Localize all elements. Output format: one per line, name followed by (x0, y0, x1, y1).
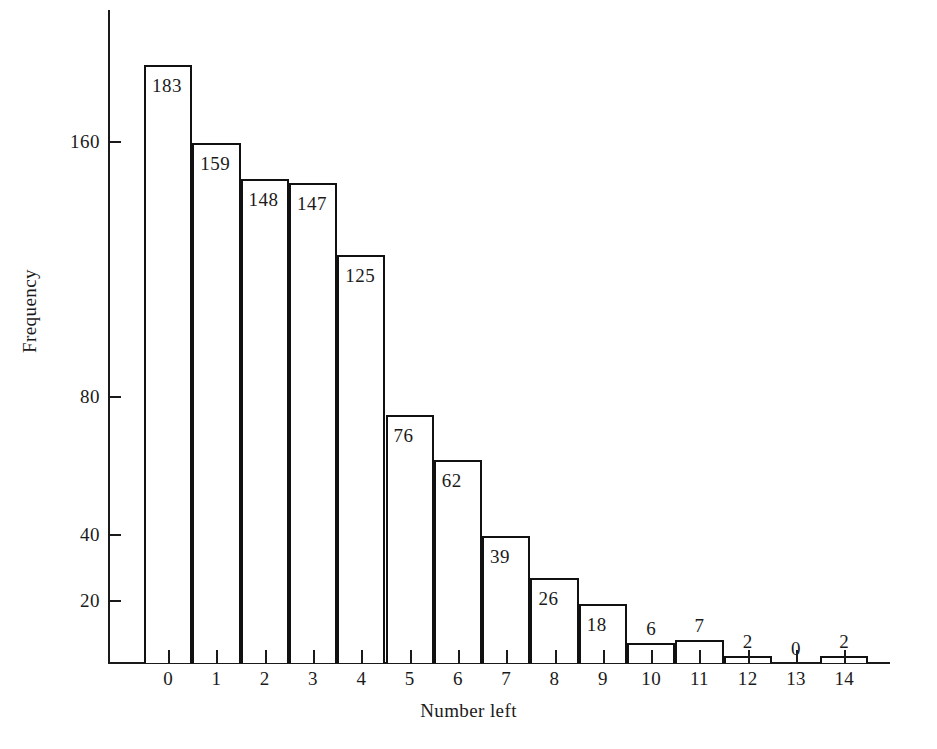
x-tick-10 (651, 650, 653, 663)
bar-value-label-5: 76 (394, 426, 414, 445)
x-tick-label-3: 3 (289, 668, 337, 690)
bar-value-label-11: 7 (675, 616, 723, 635)
bar-value-label-10: 6 (627, 619, 675, 638)
x-tick-label-0: 0 (144, 668, 192, 690)
y-axis-title: Frequency (19, 251, 41, 371)
y-tick-20 (108, 600, 121, 602)
x-tick-label-2: 2 (241, 668, 289, 690)
x-tick-label-4: 4 (337, 668, 385, 690)
bar-value-label-12: 2 (724, 632, 772, 651)
x-tick-5 (410, 650, 412, 663)
bar-5 (386, 415, 434, 663)
bar-1 (192, 143, 240, 663)
x-tick-label-5: 5 (386, 668, 434, 690)
x-axis-title: Number left (0, 700, 937, 722)
y-tick-label-40: 40 (40, 525, 100, 544)
y-tick-label-20-wrap: 20 (35, 591, 100, 610)
bar-value-label-2: 148 (249, 190, 279, 209)
bar-value-label-0: 183 (152, 76, 182, 95)
x-tick-1 (216, 650, 218, 663)
x-tick-11 (699, 650, 701, 663)
x-tick-3 (313, 650, 315, 663)
x-tick-4 (361, 650, 363, 663)
x-tick-7 (506, 650, 508, 663)
bar-value-label-4: 125 (345, 266, 375, 285)
x-tick-9 (603, 650, 605, 663)
bar-value-label-8: 26 (538, 589, 558, 608)
x-tick-label-14: 14 (820, 668, 868, 690)
y-tick-label-40-wrap: 40 (35, 525, 100, 544)
bar-value-label-6: 62 (442, 471, 462, 490)
y-tick-40 (108, 534, 121, 536)
x-tick-12 (748, 650, 750, 663)
x-tick-label-8: 8 (530, 668, 578, 690)
x-tick-label-12: 12 (724, 668, 772, 690)
x-tick-8 (555, 650, 557, 663)
x-tick-13 (796, 650, 798, 663)
bar-3 (289, 183, 337, 663)
bar-value-label-14: 2 (820, 632, 868, 651)
bar-2 (241, 179, 289, 663)
x-tick-label-7: 7 (482, 668, 530, 690)
x-tick-14 (844, 650, 846, 663)
y-tick-160 (108, 141, 121, 143)
y-tick-label-80: 80 (40, 387, 100, 406)
y-axis-line (108, 10, 110, 664)
bar-0 (144, 65, 192, 663)
bar-value-label-7: 39 (490, 547, 510, 566)
x-tick-label-13: 13 (772, 668, 820, 690)
bar-value-label-3: 147 (297, 194, 327, 213)
y-tick-label-20: 20 (40, 591, 100, 610)
x-tick-0 (168, 650, 170, 663)
y-tick-label-160: 160 (40, 132, 100, 151)
x-tick-label-11: 11 (675, 668, 723, 690)
bar-4 (337, 255, 385, 664)
x-tick-label-9: 9 (579, 668, 627, 690)
histogram-chart: 160 80 40 20 Frequency Number left 18301… (0, 0, 937, 749)
y-tick-80 (108, 396, 121, 398)
x-tick-label-1: 1 (192, 668, 240, 690)
x-tick-6 (458, 650, 460, 663)
x-tick-label-10: 10 (627, 668, 675, 690)
bar-value-label-9: 18 (587, 615, 607, 634)
y-tick-label-80-wrap: 80 (35, 387, 100, 406)
y-tick-label-160-wrap: 160 (35, 132, 100, 151)
x-tick-2 (265, 650, 267, 663)
x-tick-label-6: 6 (434, 668, 482, 690)
bar-value-label-1: 159 (200, 154, 230, 173)
